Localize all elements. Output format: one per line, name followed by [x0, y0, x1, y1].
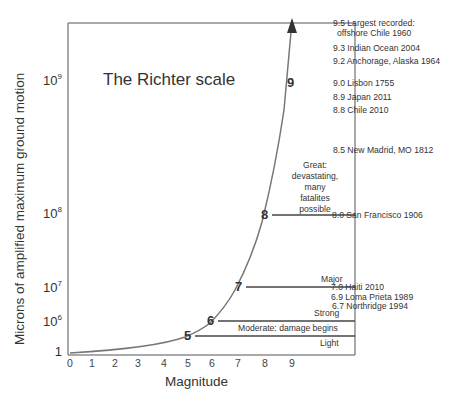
quake-8-9: 8.9 Japan 2011: [333, 92, 392, 102]
curve-label-7: 7: [235, 279, 242, 294]
category-moderate: Moderate: damage begins: [222, 323, 354, 334]
quake-9-5: 9.5 Largest recorded:: [333, 18, 415, 28]
category-light: Light: [320, 338, 339, 349]
y-tick-1e7: 107: [22, 280, 62, 295]
x-tick-4: 4: [157, 357, 171, 369]
arrow-head-icon: [287, 18, 297, 33]
x-tick-6: 6: [205, 357, 219, 369]
x-axis-title: Magnitude: [165, 374, 228, 389]
x-tick-8: 8: [258, 357, 272, 369]
curve-label-9: 9: [287, 75, 294, 90]
chart-title: The Richter scale: [103, 70, 235, 90]
curve-label-6: 6: [207, 313, 214, 328]
x-tick-9: 9: [285, 357, 299, 369]
quake-6-7: 6.7 Northridge 1994: [332, 301, 408, 311]
x-tick-7: 7: [231, 357, 245, 369]
quake-8-8: 8.8 Chile 2010: [333, 105, 388, 115]
x-tick-2: 2: [108, 357, 122, 369]
category-great: Great: devastating, many fatalites possi…: [278, 160, 352, 215]
quake-8-5: 8.5 New Madrid, MO 1812: [333, 145, 433, 155]
curve-label-8: 8: [261, 207, 268, 222]
y-tick-1e9: 109: [22, 73, 62, 88]
x-tick-5: 5: [181, 357, 195, 369]
x-tick-3: 3: [131, 357, 145, 369]
quake-7-0: 7.0 Haiti 2010: [331, 282, 384, 292]
y-tick-1: 1: [22, 344, 62, 359]
y-tick-1e6: 106: [22, 314, 62, 329]
quake-9-5-line2: offshore Chile 1960: [337, 28, 411, 38]
quake-9-2: 9.2 Anchorage, Alaska 1964: [333, 56, 440, 66]
x-tick-0: 0: [63, 357, 77, 369]
curve-label-5: 5: [184, 328, 191, 343]
quake-9-0: 9.0 Lisbon 1755: [333, 78, 394, 88]
x-tick-1: 1: [85, 357, 99, 369]
quake-8-0: 8.0 San Francisco 1906: [332, 210, 423, 220]
quake-9-3: 9.3 Indian Ocean 2004: [333, 43, 420, 53]
y-tick-1e8: 108: [22, 206, 62, 221]
